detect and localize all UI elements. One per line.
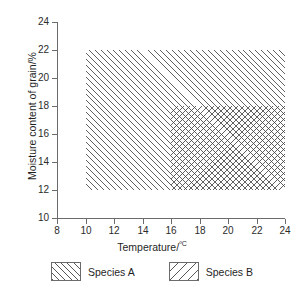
x-tick-label: 24 — [275, 226, 295, 236]
x-tick-label: 18 — [190, 226, 210, 236]
x-axis-title-text: Temperature/ — [117, 241, 179, 253]
y-axis-title: Moisture content of grain/% — [26, 21, 38, 211]
legend-label-species-a: Species A — [88, 266, 135, 278]
x-tick-label: 8 — [47, 226, 67, 236]
x-tick-label: 22 — [247, 226, 267, 236]
x-tick-mark — [285, 219, 286, 224]
x-tick-label: 12 — [104, 226, 124, 236]
legend-swatch-species-a — [51, 262, 81, 281]
y-tick-mark — [52, 190, 58, 191]
x-tick-mark — [57, 219, 58, 224]
x-tick-label: 16 — [161, 226, 181, 236]
x-tick-mark — [143, 219, 144, 224]
region-species-b — [171, 106, 285, 190]
legend: Species A Species B — [0, 262, 304, 281]
y-tick-mark — [52, 78, 58, 79]
x-tick-mark — [200, 219, 201, 224]
x-tick-label: 10 — [76, 226, 96, 236]
x-tick-mark — [114, 219, 115, 224]
x-tick-mark — [86, 219, 87, 224]
legend-label-species-b: Species B — [206, 266, 253, 278]
chart-figure: 1012141618202224 81012141618202224 Tempe… — [0, 0, 304, 296]
x-axis-title: Temperature/ºC — [0, 240, 304, 253]
x-tick-label: 20 — [218, 226, 238, 236]
y-tick-mark — [52, 106, 58, 107]
legend-swatch-species-b — [169, 262, 199, 281]
plot-area — [57, 22, 285, 218]
y-tick-mark — [52, 22, 58, 23]
x-tick-label: 14 — [133, 226, 153, 236]
y-tick-mark — [52, 50, 58, 51]
x-tick-mark — [228, 219, 229, 224]
x-tick-mark — [257, 219, 258, 224]
x-tick-mark — [171, 219, 172, 224]
y-tick-mark — [52, 162, 58, 163]
y-tick-mark — [52, 134, 58, 135]
legend-entry-species-b[interactable]: Species B — [169, 262, 253, 281]
y-tick-label: 10 — [29, 213, 49, 223]
legend-entry-species-a[interactable]: Species A — [51, 262, 135, 281]
x-axis-title-unit: ºC — [179, 240, 187, 247]
